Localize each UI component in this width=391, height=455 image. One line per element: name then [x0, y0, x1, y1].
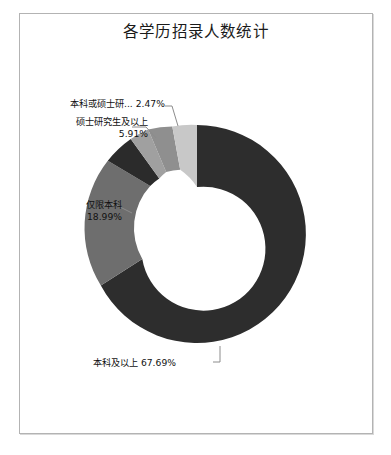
- slice-label-bachelor-plus: 本科及以上 67.69%: [93, 357, 176, 369]
- slice-label-bachelor-only-percent: 18.99%: [87, 211, 122, 222]
- donut-chart-plot-area: 本科或硕士研... 2.47% 硕士研究生及以上 5.91% 仅限本科 18.9…: [20, 14, 374, 435]
- donut-chart-svg: [20, 14, 374, 435]
- leader-line-bachelor-or-master: [165, 106, 178, 126]
- slice-label-master-plus-percent: 5.91%: [119, 128, 148, 139]
- chart-container: 各学历招录人数统计 本科或硕士研... 2.47% 硕士研究生及以上: [19, 13, 373, 434]
- leader-line-bachelor-plus: [213, 346, 220, 362]
- slice-label-bachelor-or-master: 本科或硕士研... 2.47%: [70, 98, 165, 110]
- slice-label-bachelor-only: 仅限本科 18.99%: [24, 199, 122, 222]
- slice-label-master-plus-name: 硕士研究生及以上: [76, 116, 148, 127]
- slice-label-master-plus: 硕士研究生及以上 5.91%: [36, 116, 148, 139]
- slice-label-bachelor-only-name: 仅限本科: [86, 199, 122, 210]
